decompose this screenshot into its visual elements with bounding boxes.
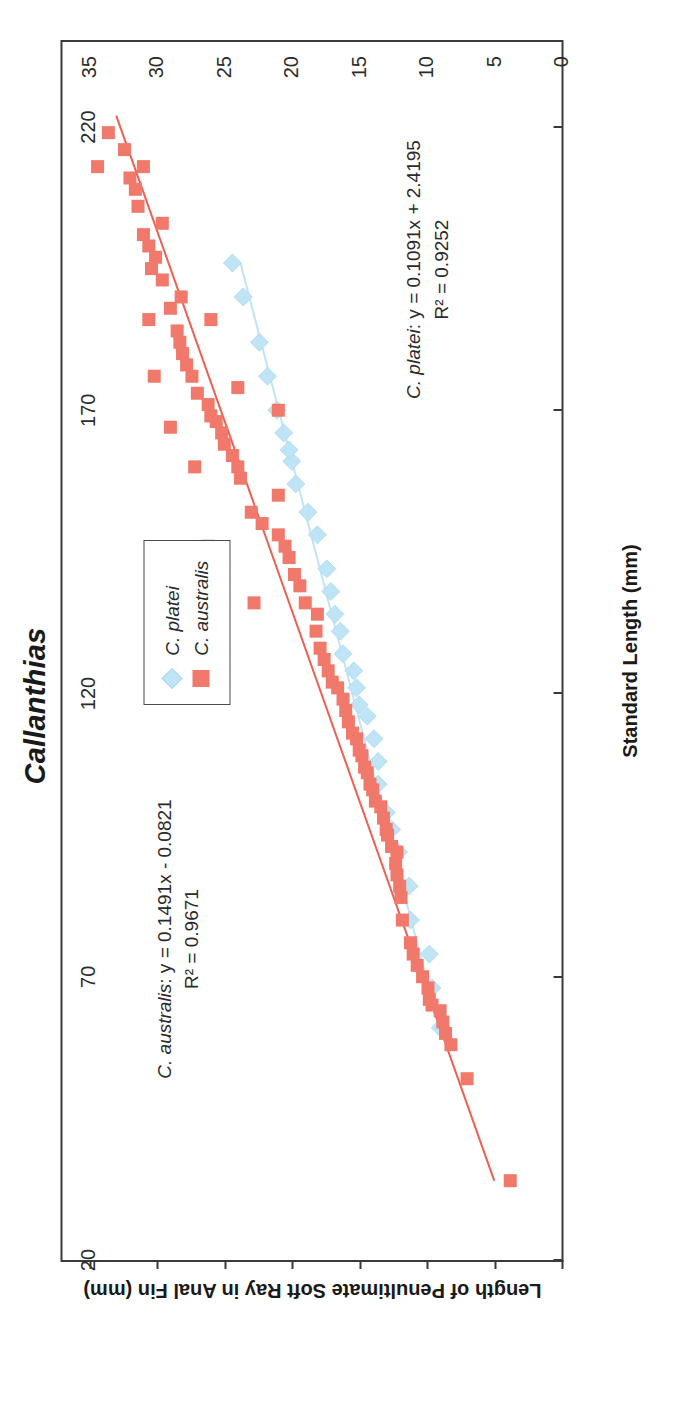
- x-tick-label: 220: [76, 110, 99, 143]
- data-point: [101, 126, 114, 139]
- data-point: [91, 160, 104, 173]
- data-point: [421, 982, 434, 995]
- data-point: [204, 409, 217, 422]
- data-point: [118, 143, 131, 156]
- data-point: [258, 367, 276, 385]
- data-point: [271, 404, 284, 417]
- data-point: [188, 460, 201, 473]
- y-tick: [359, 1260, 361, 1269]
- annotation-australis-equation: : y = 0.1491x - 0.0821: [153, 799, 174, 983]
- data-point: [325, 676, 338, 689]
- data-point: [439, 1027, 452, 1040]
- y-tick-label: 10: [415, 56, 438, 78]
- data-point: [365, 730, 383, 748]
- data-point: [334, 645, 352, 663]
- data-point: [352, 744, 365, 757]
- y-tick-label: 20: [280, 56, 303, 78]
- data-point: [231, 381, 244, 394]
- legend-item-australis: C. australis: [190, 561, 212, 690]
- data-point: [163, 302, 176, 315]
- data-point: [406, 948, 419, 961]
- data-point: [223, 254, 241, 272]
- y-axis-title: Length of Penultimate Soft Ray in Anal F…: [32, 1279, 592, 1302]
- data-point: [416, 970, 429, 983]
- data-point: [131, 200, 144, 213]
- data-point: [142, 313, 155, 326]
- y-tick: [494, 1260, 496, 1269]
- data-point: [293, 579, 306, 592]
- data-point: [287, 568, 300, 581]
- y-tick-label: 0: [550, 56, 573, 67]
- data-point: [385, 840, 398, 853]
- data-point: [142, 239, 155, 252]
- data-point: [149, 251, 162, 264]
- y-tick-label: 5: [482, 56, 505, 67]
- data-point: [215, 426, 228, 439]
- data-point: [393, 880, 406, 893]
- data-point: [123, 171, 136, 184]
- annotation-australis-species: C. australis: [153, 984, 174, 1079]
- data-point: [460, 1072, 473, 1085]
- annotation-platei: C. platei: y = 0.1091x + 2.4195 R² = 0.9…: [399, 140, 454, 399]
- chart-legend: C. platei C. australis: [143, 540, 230, 705]
- legend-label-platei: C. platei: [161, 586, 183, 656]
- data-point: [325, 605, 343, 623]
- data-point: [345, 727, 358, 740]
- annotation-australis: C. australis: y = 0.1491x - 0.0821 R² = …: [150, 799, 205, 1078]
- y-tick-label: 35: [77, 56, 100, 78]
- legend-label-australis: C. australis: [190, 561, 212, 656]
- x-tick: [553, 126, 562, 128]
- data-point: [403, 936, 416, 949]
- x-tick-label: 20: [76, 1249, 99, 1271]
- data-point: [180, 358, 193, 371]
- data-point: [271, 489, 284, 502]
- annotation-australis-r2: R² = 0.9671: [177, 799, 205, 1078]
- y-tick: [291, 1260, 293, 1269]
- data-point: [339, 704, 352, 717]
- data-point: [286, 475, 304, 493]
- data-point: [310, 608, 323, 621]
- x-tick: [553, 976, 562, 978]
- data-point: [341, 715, 354, 728]
- data-point: [234, 288, 252, 306]
- x-tick: [553, 409, 562, 411]
- data-point: [336, 693, 349, 706]
- data-point: [321, 664, 334, 677]
- legend-swatch-australis-icon: [192, 668, 209, 690]
- data-point: [282, 551, 295, 564]
- data-point: [298, 596, 311, 609]
- y-axis-group: Length of Penultimate Soft Ray in Anal F…: [60, 1318, 563, 1358]
- data-point: [358, 761, 371, 774]
- data-point: [298, 503, 316, 521]
- y-tick: [426, 1260, 428, 1269]
- data-point: [436, 1016, 449, 1029]
- data-point: [503, 1174, 516, 1187]
- y-tick-label: 15: [347, 56, 370, 78]
- y-tick-label: 25: [212, 56, 235, 78]
- data-point: [185, 370, 198, 383]
- data-point: [313, 642, 326, 655]
- series-layer: [62, 42, 561, 1260]
- data-point: [190, 387, 203, 400]
- chart-figure: Callanthias Length of Penultimate Soft R…: [0, 0, 675, 1412]
- data-point: [389, 857, 402, 870]
- data-point: [174, 290, 187, 303]
- data-point: [225, 449, 238, 462]
- data-point: [176, 347, 189, 360]
- x-tick-label: 70: [76, 966, 99, 988]
- plot-area: [62, 42, 561, 1260]
- annotation-platei-equation: : y = 0.1091x + 2.4195: [402, 140, 423, 329]
- data-point: [309, 625, 322, 638]
- data-point: [217, 438, 230, 451]
- annotation-platei-species: C. platei: [402, 329, 423, 399]
- data-point: [136, 228, 149, 241]
- chart-title: Callanthias: [18, 0, 51, 1412]
- x-axis-title: Standard Length (mm): [618, 40, 641, 1262]
- data-point: [390, 868, 403, 881]
- data-point: [317, 653, 330, 666]
- data-point: [234, 472, 247, 485]
- data-point: [128, 183, 141, 196]
- data-point: [278, 540, 291, 553]
- data-point: [344, 662, 362, 680]
- data-point: [247, 596, 260, 609]
